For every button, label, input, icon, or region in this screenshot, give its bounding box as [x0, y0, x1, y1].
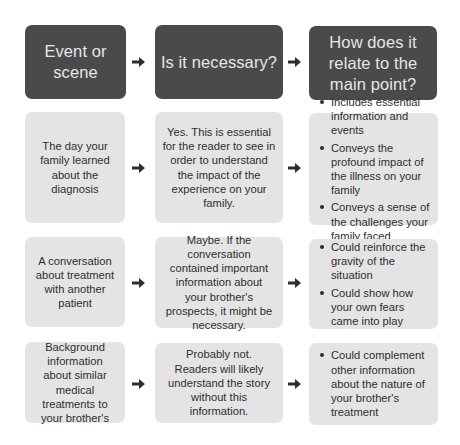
header-necessary-label: Is it necessary? — [161, 52, 277, 73]
right-arrow-icon — [288, 378, 302, 390]
row1-relation-cell: Includes essential information and event… — [309, 113, 438, 225]
row2-necessary-text: Maybe. If the conversation contained imp… — [155, 233, 283, 332]
row3-necessary-cell: Probably not. Readers will likely unders… — [155, 343, 283, 423]
row2-event-text: A conversation about treatment with anot… — [25, 254, 125, 311]
row1-necessary-cell: Yes. This is essential for the reader to… — [155, 112, 283, 223]
header-event-or-scene: Event or scene — [25, 25, 126, 99]
header-relation-label: How does it relate to the main point? — [309, 32, 437, 95]
header-is-it-necessary: Is it necessary? — [155, 25, 283, 99]
list-item: Could reinforce the gravity of the situa… — [319, 240, 432, 283]
right-arrow-icon — [132, 56, 146, 68]
row1-relation-list: Includes essential information and event… — [309, 95, 438, 243]
row1-event-text: The day your family learned about the di… — [25, 139, 125, 196]
right-arrow-icon — [288, 162, 302, 174]
right-arrow-icon — [132, 162, 146, 174]
right-arrow-icon — [288, 56, 302, 68]
list-item: Conveys the profound impact of the illne… — [319, 141, 432, 198]
row1-event-cell: The day your family learned about the di… — [25, 112, 125, 223]
list-item: Could complement other information about… — [319, 348, 432, 419]
header-relation-to-main-point: How does it relate to the main point? — [309, 26, 437, 100]
row3-relation-cell: Could complement other information about… — [309, 343, 438, 425]
row2-necessary-cell: Maybe. If the conversation contained imp… — [155, 237, 283, 328]
row2-relation-list: Could reinforce the gravity of the situa… — [309, 240, 438, 328]
list-item: Conveys a sense of the challenges your f… — [319, 200, 432, 243]
row3-event-text: Background information about similar med… — [25, 340, 125, 425]
list-item: Includes essential information and event… — [319, 95, 432, 138]
right-arrow-icon — [132, 277, 146, 289]
row3-relation-list: Could complement other information about… — [309, 348, 438, 419]
row2-event-cell: A conversation about treatment with anot… — [25, 237, 125, 327]
row2-relation-cell: Could reinforce the gravity of the situa… — [309, 239, 438, 329]
header-event-label: Event or scene — [25, 41, 126, 83]
row3-necessary-text: Probably not. Readers will likely unders… — [155, 347, 283, 418]
right-arrow-icon — [132, 378, 146, 390]
row3-event-cell: Background information about similar med… — [25, 342, 125, 423]
row1-necessary-text: Yes. This is essential for the reader to… — [155, 125, 283, 210]
list-item: Could show how your own fears came into … — [319, 286, 432, 329]
right-arrow-icon — [288, 277, 302, 289]
